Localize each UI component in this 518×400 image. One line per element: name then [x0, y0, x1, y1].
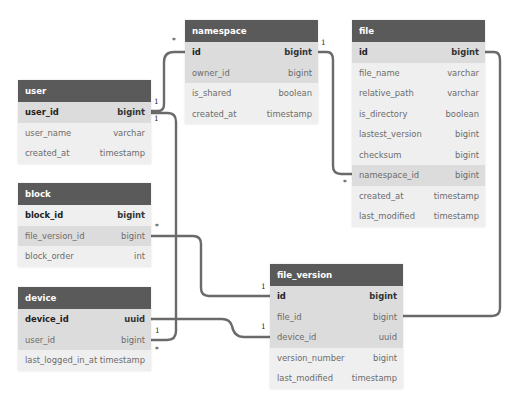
column-name: is_directory	[359, 109, 407, 119]
table-row[interactable]: lastest_version bigint	[352, 124, 485, 145]
table-row[interactable]: checksum bigint	[352, 145, 485, 166]
table-file-version[interactable]: file_version id bigint file_id bigint de…	[270, 264, 403, 389]
er-diagram-canvas: * 1 1 1 * * 1 1 1 * user user_id bigint …	[0, 0, 518, 400]
cardinality-one: 1	[261, 322, 266, 331]
cardinality-one: 1	[154, 114, 159, 123]
table-row[interactable]: namespace_id bigint	[352, 165, 485, 186]
table-row[interactable]: file_id bigint	[270, 307, 403, 328]
table-row[interactable]: created_at timestamp	[18, 143, 151, 164]
column-name: user_name	[25, 128, 71, 138]
column-name: last_modified	[277, 373, 333, 383]
column-name: version_number	[277, 353, 345, 363]
table-row[interactable]: relative_path varchar	[352, 83, 485, 104]
column-type: bigint	[455, 150, 479, 160]
column-type: uuid	[124, 314, 145, 324]
column-type: bigint	[121, 231, 145, 241]
column-type: int	[134, 251, 145, 261]
column-type: bigint	[288, 68, 312, 78]
column-type: timestamp	[434, 191, 479, 201]
link-block-fileversion	[150, 236, 270, 296]
column-name: file_version_id	[25, 231, 84, 241]
column-type: varchar	[447, 68, 479, 78]
table-row[interactable]: id bigint	[270, 286, 403, 307]
column-type: bigint	[369, 291, 397, 301]
table-row[interactable]: id bigint	[352, 42, 485, 63]
column-type: bigint	[455, 170, 479, 180]
table-header: device	[18, 287, 151, 309]
column-name: owner_id	[192, 68, 230, 78]
column-type: bigint	[284, 47, 312, 57]
column-name: file_id	[277, 312, 302, 322]
column-type: bigint	[121, 335, 145, 345]
column-type: bigint	[117, 107, 145, 117]
table-row[interactable]: last_modified timestamp	[352, 206, 485, 227]
table-user[interactable]: user user_id bigint user_name varchar cr…	[18, 80, 151, 164]
column-type: timestamp	[100, 148, 145, 158]
table-row[interactable]: version_number bigint	[270, 348, 403, 369]
column-type: timestamp	[434, 211, 479, 221]
table-row[interactable]: device_id uuid	[270, 327, 403, 348]
table-row[interactable]: created_at timestamp	[185, 104, 318, 125]
column-name: checksum	[359, 150, 401, 160]
column-name: created_at	[359, 191, 404, 201]
cardinality-many: *	[155, 222, 159, 231]
table-row[interactable]: user_id bigint	[18, 330, 151, 351]
table-header: namespace	[185, 20, 318, 42]
cardinality-one: 1	[155, 326, 160, 335]
column-type: timestamp	[100, 355, 145, 365]
column-type: boolean	[446, 109, 479, 119]
column-type: varchar	[113, 128, 145, 138]
column-name: created_at	[192, 109, 237, 119]
column-name: lastest_version	[359, 129, 422, 139]
column-name: id	[359, 47, 368, 57]
table-row[interactable]: is_shared boolean	[185, 83, 318, 104]
cardinality-one: 1	[154, 97, 159, 106]
column-type: bigint	[451, 47, 479, 57]
column-type: bigint	[373, 353, 397, 363]
column-name: device_id	[277, 332, 316, 342]
column-type: bigint	[117, 210, 145, 220]
table-device[interactable]: device device_id uuid user_id bigint las…	[18, 287, 151, 371]
link-device-fileversion	[150, 319, 270, 337]
column-type: uuid	[379, 332, 397, 342]
link-namespace-file	[318, 52, 352, 174]
table-row[interactable]: owner_id bigint	[185, 63, 318, 84]
table-row[interactable]: is_directory boolean	[352, 104, 485, 125]
table-header: user	[18, 80, 151, 102]
table-row[interactable]: last_modified timestamp	[270, 368, 403, 389]
table-header: file	[352, 20, 485, 42]
column-type: bigint	[373, 312, 397, 322]
table-row[interactable]: created_at timestamp	[352, 186, 485, 207]
column-name: created_at	[25, 148, 70, 158]
column-type: bigint	[455, 129, 479, 139]
column-name: block_id	[25, 210, 63, 220]
cardinality-one: 1	[321, 38, 326, 47]
table-namespace[interactable]: namespace id bigint owner_id bigint is_s…	[185, 20, 318, 124]
cardinality-many: *	[172, 36, 176, 45]
column-name: id	[192, 47, 201, 57]
table-row[interactable]: user_id bigint	[18, 102, 151, 123]
column-type: boolean	[279, 88, 312, 98]
table-row[interactable]: file_name varchar	[352, 63, 485, 84]
column-name: block_order	[25, 251, 74, 261]
column-name: last_modified	[359, 211, 415, 221]
table-row[interactable]: block_id bigint	[18, 205, 151, 226]
table-header: block	[18, 183, 151, 205]
table-row[interactable]: user_name varchar	[18, 123, 151, 144]
column-name: id	[277, 291, 286, 301]
column-name: file_name	[359, 68, 400, 78]
column-name: is_shared	[192, 88, 231, 98]
column-type: varchar	[447, 88, 479, 98]
link-user-device	[150, 113, 176, 340]
table-row[interactable]: file_version_id bigint	[18, 226, 151, 247]
column-name: device_id	[25, 314, 69, 324]
column-type: timestamp	[267, 109, 312, 119]
column-type: timestamp	[352, 373, 397, 383]
table-file[interactable]: file id bigint file_name varchar relativ…	[352, 20, 485, 227]
table-block[interactable]: block block_id bigint file_version_id bi…	[18, 183, 151, 267]
table-row[interactable]: id bigint	[185, 42, 318, 63]
table-row[interactable]: block_order int	[18, 246, 151, 267]
column-name: last_logged_in_at	[25, 355, 97, 365]
table-row[interactable]: last_logged_in_at timestamp	[18, 350, 151, 371]
table-row[interactable]: device_id uuid	[18, 309, 151, 330]
